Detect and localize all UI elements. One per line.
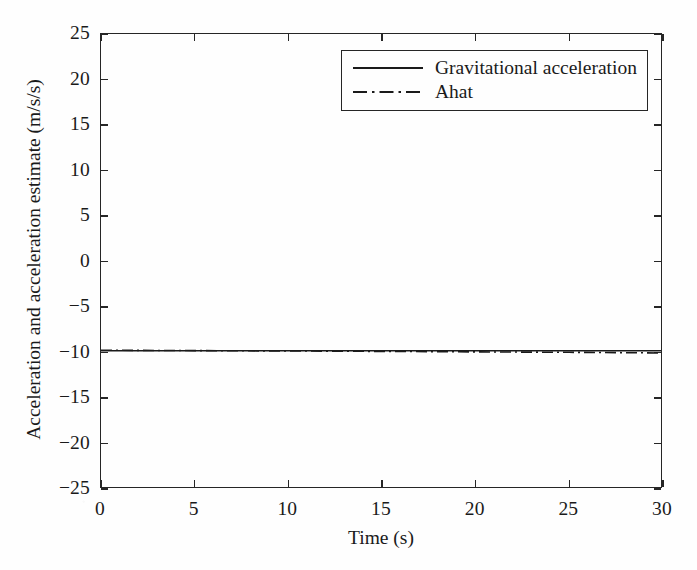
legend-item-gravitational-acceleration: Gravitational acceleration bbox=[342, 56, 647, 80]
y-tick-mark bbox=[101, 488, 108, 489]
legend-label-gravitational-acceleration: Gravitational acceleration bbox=[435, 58, 637, 78]
y-tick-label: −25 bbox=[10, 478, 90, 498]
y-tick-label: −20 bbox=[10, 433, 90, 453]
y-tick-label: 0 bbox=[10, 251, 90, 271]
legend-line-sample-solid-icon bbox=[351, 61, 425, 75]
y-tick-label: −15 bbox=[10, 387, 90, 407]
x-tick-label: 25 bbox=[558, 499, 578, 519]
x-tick-label: 15 bbox=[371, 499, 391, 519]
x-tick-label: 5 bbox=[189, 499, 199, 519]
y-tick-label: −5 bbox=[10, 296, 90, 316]
y-tick-mark bbox=[654, 488, 661, 489]
x-tick-label: 10 bbox=[277, 499, 297, 519]
x-tick-label: 30 bbox=[652, 499, 672, 519]
y-tick-label: 15 bbox=[10, 114, 90, 134]
legend-label-ahat: Ahat bbox=[435, 82, 473, 102]
y-tick-label: −10 bbox=[10, 342, 90, 362]
y-tick-label: 20 bbox=[10, 69, 90, 89]
legend-item-ahat: Ahat bbox=[342, 80, 647, 104]
x-tick-mark bbox=[662, 480, 663, 487]
figure-canvas: Acceleration and acceleration estimate (… bbox=[0, 0, 697, 570]
legend-box: Gravitational acceleration Ahat bbox=[341, 50, 648, 111]
x-tick-label: 20 bbox=[465, 499, 485, 519]
x-tick-mark bbox=[662, 34, 663, 41]
y-tick-label: 10 bbox=[10, 160, 90, 180]
legend-line-sample-dashdot-icon bbox=[351, 85, 425, 99]
x-tick-label: 0 bbox=[95, 499, 105, 519]
y-tick-label: 5 bbox=[10, 205, 90, 225]
y-tick-label: 25 bbox=[10, 23, 90, 43]
x-axis-title: Time (s) bbox=[100, 528, 662, 548]
